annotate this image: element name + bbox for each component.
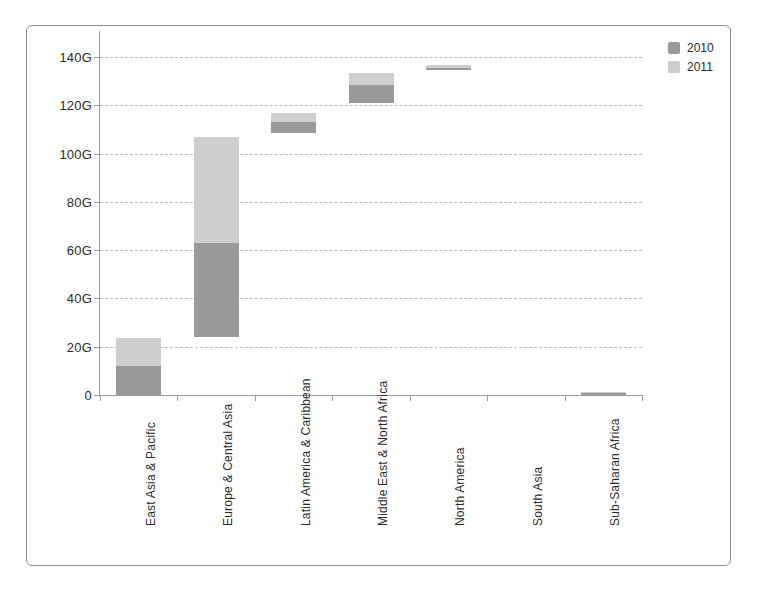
y-tick-mark-120G: [94, 105, 100, 106]
y-tick-mark-80G: [94, 202, 100, 203]
bar-segment[interactable]: [349, 85, 394, 103]
bar-segment[interactable]: [116, 338, 161, 366]
x-axis-line: [99, 395, 642, 396]
legend-item-2010[interactable]: 2010: [668, 38, 732, 57]
bar-segment[interactable]: [194, 137, 239, 243]
x-tick-label-east-asia-pacific: East Asia & Pacific: [144, 422, 158, 526]
x-tick-mark: [332, 395, 333, 401]
chart-legend: 20102011: [668, 38, 732, 76]
legend-swatch-icon: [668, 61, 680, 73]
legend-swatch-icon: [668, 42, 680, 54]
y-tick-label-120G: 120G: [59, 98, 92, 113]
x-tick-label-north-america: North America: [453, 447, 467, 526]
y-tick-label-140G: 140G: [59, 50, 92, 65]
y-tick-mark-100G: [94, 154, 100, 155]
gridline-100G: [100, 154, 642, 155]
y-tick-mark-20G: [94, 347, 100, 348]
y-tick-label-80G: 80G: [67, 194, 92, 209]
y-axis-line: [99, 31, 100, 396]
x-tick-mark: [100, 395, 101, 401]
x-tick-mark: [177, 395, 178, 401]
x-tick-mark: [410, 395, 411, 401]
x-tick-mark: [642, 395, 643, 401]
x-tick-mark: [487, 395, 488, 401]
gridline-120G: [100, 105, 642, 106]
x-tick-label-europe-central-asia: Europe & Central Asia: [221, 404, 235, 526]
gridline-140G: [100, 57, 642, 58]
y-tick-mark-60G: [94, 250, 100, 251]
y-tick-mark-140G: [94, 57, 100, 58]
bar-segment[interactable]: [426, 68, 471, 70]
bar-segment[interactable]: [116, 366, 161, 395]
bar-segment[interactable]: [581, 393, 626, 395]
y-axis-tick-labels: 020G40G60G80G100G120G140G: [30, 0, 92, 604]
x-tick-label-south-asia: South Asia: [531, 467, 545, 526]
bar-segment[interactable]: [271, 122, 316, 133]
y-tick-label-0: 0: [85, 388, 92, 403]
y-tick-label-60G: 60G: [67, 243, 92, 258]
bar-segment[interactable]: [581, 392, 626, 394]
y-tick-mark-40G: [94, 298, 100, 299]
y-tick-label-20G: 20G: [67, 339, 92, 354]
gridline-80G: [100, 202, 642, 203]
y-tick-label-40G: 40G: [67, 291, 92, 306]
bar-segment[interactable]: [426, 65, 471, 68]
chart-container: 020G40G60G80G100G120G140G East Asia & Pa…: [0, 0, 761, 604]
legend-item-2011[interactable]: 2011: [668, 57, 732, 76]
y-tick-label-100G: 100G: [59, 146, 92, 161]
x-tick-label-middle-east-north-africa: Middle East & North Africa: [376, 381, 390, 526]
x-tick-label-sub-saharan-africa: Sub-Saharan Africa: [608, 418, 622, 526]
gridline-40G: [100, 298, 642, 299]
x-tick-label-latin-america-caribbean: Latin America & Caribbean: [299, 378, 313, 526]
bar-segment[interactable]: [271, 113, 316, 123]
bar-segment[interactable]: [349, 73, 394, 85]
bar-segment[interactable]: [194, 243, 239, 337]
x-tick-mark: [255, 395, 256, 401]
x-tick-mark: [565, 395, 566, 401]
gridline-20G: [100, 347, 642, 348]
gridline-60G: [100, 250, 642, 251]
legend-label: 2010: [687, 41, 714, 55]
legend-label: 2011: [687, 60, 713, 74]
